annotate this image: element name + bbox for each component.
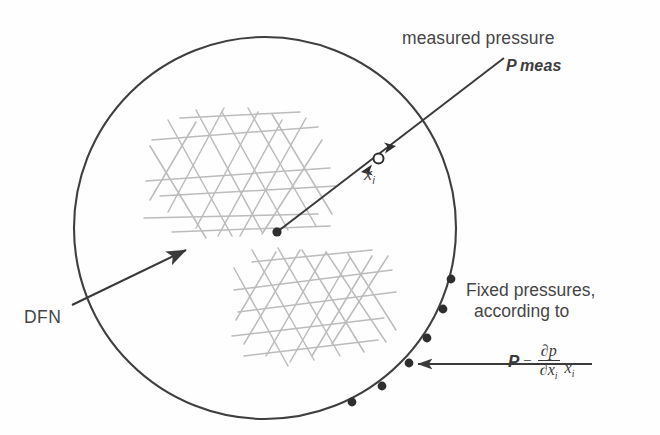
boundary-dot (439, 305, 448, 314)
fixed-pressures-label: Fixed pressures, according to (466, 280, 595, 321)
measured-pressure-label: measured pressure (402, 28, 554, 49)
formula-denominator-subscript: i (555, 370, 558, 381)
formula-numerator: ∂p (539, 343, 559, 360)
fracture-network-upper (144, 108, 336, 238)
formula-lhs: P (508, 352, 519, 372)
x-i-variable: x (364, 166, 372, 183)
p-meas-symbol-label: Pmeas (506, 57, 562, 76)
formula-denominator-base: ∂x (540, 361, 555, 378)
formula-denominator: ∂xi (538, 361, 560, 381)
x-i-label: xi (364, 166, 375, 186)
formula-fraction: ∂p ∂xi (538, 343, 560, 381)
p-meas-variable: P (506, 57, 517, 74)
dfn-label: DFN (24, 307, 61, 328)
boundary-dot (447, 275, 456, 284)
fracture-network-lower (232, 248, 396, 366)
p-meas-subscript: meas (520, 57, 562, 74)
boundary-dot (423, 334, 432, 343)
formula-multiplier-subscript: i (572, 368, 575, 379)
fixed-pressures-line-2: according to (474, 301, 595, 322)
boundary-dot (348, 398, 357, 407)
x-i-subscript: i (373, 174, 375, 186)
pointer-origin-dot (272, 227, 281, 236)
formula-equals: = (523, 354, 531, 371)
fixed-pressures-line-1: Fixed pressures, (466, 280, 595, 300)
boundary-dot (378, 382, 387, 391)
formula-multiplier-base: x (565, 359, 572, 376)
formula-multiplier: xi (565, 359, 575, 381)
figure-root: measured pressure Pmeas xi DFN Fixed pre… (0, 0, 660, 435)
boundary-dot (405, 359, 414, 368)
dfn-callout-arrow (72, 250, 186, 305)
pressure-formula: P = ∂p ∂xi xi (508, 343, 575, 381)
measurement-point-marker (374, 154, 384, 164)
